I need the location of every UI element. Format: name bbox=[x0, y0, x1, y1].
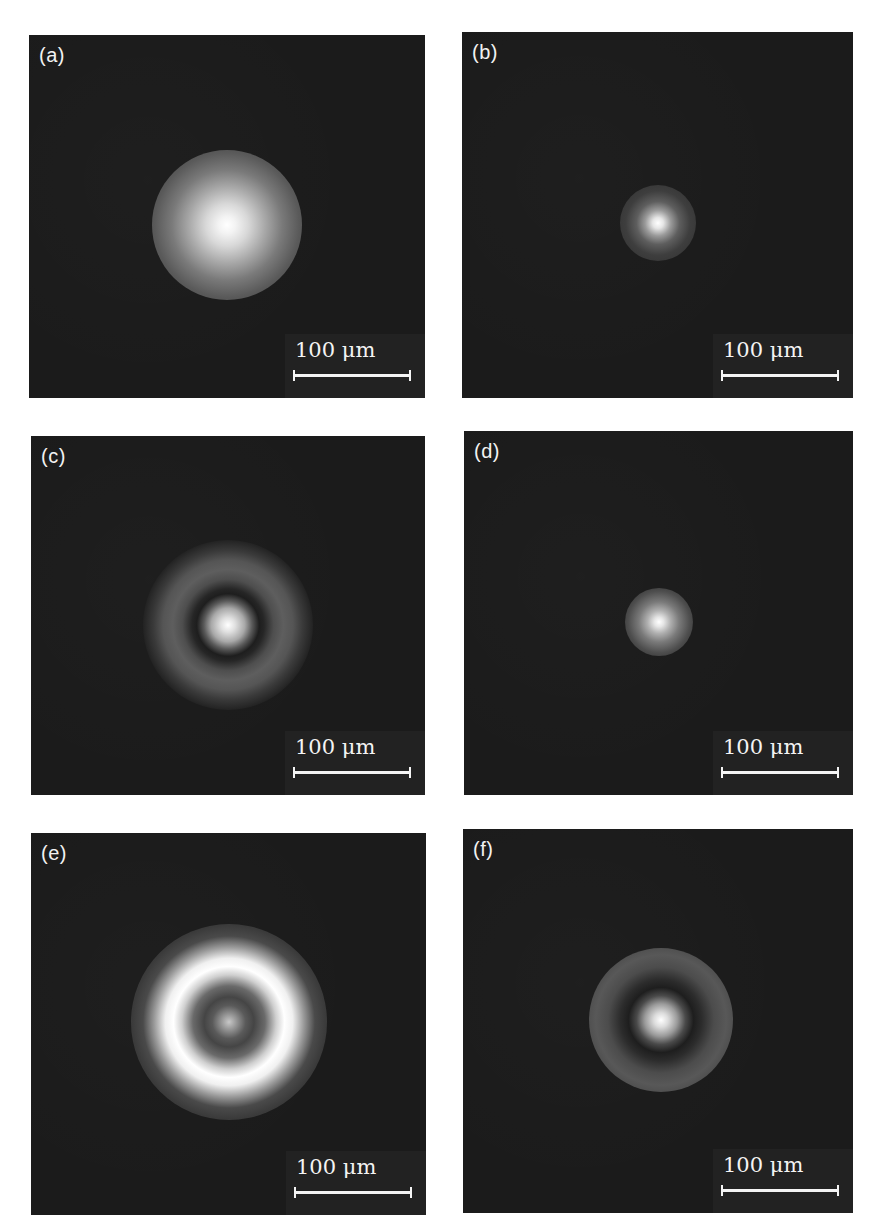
panel-c: (c) 100 μm bbox=[31, 436, 425, 795]
scale-bar-line bbox=[721, 771, 839, 774]
scale-bar-label: 100 μm bbox=[723, 1153, 803, 1177]
scale-bar: 100 μm bbox=[285, 731, 425, 795]
scale-bar-label: 100 μm bbox=[723, 338, 803, 362]
figure-grid: (a) 100 μm (b) 100 μm (c) 100 μm (d) 100… bbox=[0, 0, 869, 1225]
scale-bar: 100 μm bbox=[713, 731, 853, 795]
panel-d: (d) 100 μm bbox=[464, 431, 853, 795]
panel-e: (e) 100 μm bbox=[31, 833, 426, 1215]
panel-label: (c) bbox=[41, 444, 66, 468]
panel-b: (b) 100 μm bbox=[462, 32, 853, 398]
panel-a: (a) 100 μm bbox=[29, 35, 425, 398]
scale-bar-label: 100 μm bbox=[296, 1155, 376, 1179]
scale-bar: 100 μm bbox=[286, 1151, 426, 1215]
panel-f: (f) 100 μm bbox=[463, 829, 853, 1213]
scale-bar-line bbox=[293, 374, 411, 377]
panel-label: (e) bbox=[41, 841, 67, 865]
panel-label: (d) bbox=[474, 439, 500, 463]
intensity-spot bbox=[152, 150, 302, 300]
scale-bar: 100 μm bbox=[713, 1149, 853, 1213]
scale-bar: 100 μm bbox=[285, 334, 425, 398]
intensity-spot bbox=[620, 185, 696, 261]
scale-bar-line bbox=[294, 1191, 412, 1194]
ring-pattern bbox=[589, 948, 733, 1092]
scale-bar: 100 μm bbox=[713, 334, 853, 398]
scale-bar-line bbox=[293, 771, 411, 774]
scale-bar-label: 100 μm bbox=[295, 735, 375, 759]
scale-bar-label: 100 μm bbox=[723, 735, 803, 759]
panel-label: (a) bbox=[39, 43, 65, 67]
scale-bar-label: 100 μm bbox=[295, 338, 375, 362]
scale-bar-line bbox=[721, 1189, 839, 1192]
panel-label: (f) bbox=[473, 837, 493, 861]
ring-pattern bbox=[143, 540, 313, 710]
scale-bar-line bbox=[721, 374, 839, 377]
intensity-spot bbox=[625, 588, 693, 656]
ring-pattern bbox=[131, 924, 327, 1120]
panel-label: (b) bbox=[472, 40, 498, 64]
